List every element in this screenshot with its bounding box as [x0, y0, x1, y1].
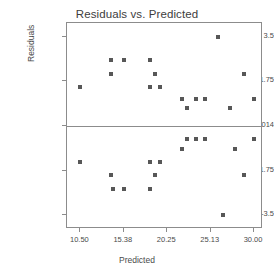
x-tick-mark — [210, 228, 211, 232]
x-tick-label: 10.50 — [70, 236, 89, 244]
x-tick-mark — [166, 228, 167, 232]
data-point — [203, 137, 207, 141]
x-tick-label: 15.38 — [113, 236, 132, 244]
x-tick-mark — [123, 228, 124, 232]
data-point — [148, 160, 152, 164]
data-point — [233, 147, 237, 151]
data-point — [242, 173, 246, 177]
data-point — [221, 213, 225, 217]
data-point — [109, 72, 113, 76]
residuals-scatter-chart: Residuals vs. Predicted Residuals Predic… — [0, 0, 274, 279]
x-tick-label: 25.13 — [200, 236, 219, 244]
data-point — [185, 106, 189, 110]
data-point — [194, 137, 198, 141]
data-point — [185, 137, 189, 141]
data-point — [180, 147, 184, 151]
data-point — [180, 97, 184, 101]
data-point — [78, 85, 82, 89]
x-tick-mark — [79, 228, 80, 232]
data-point — [122, 58, 126, 62]
x-tick-label: 30.00 — [244, 236, 263, 244]
data-point — [203, 97, 207, 101]
chart-title: Residuals vs. Predicted — [0, 8, 274, 20]
data-point — [242, 72, 246, 76]
x-tick-label: 20.25 — [157, 236, 176, 244]
data-point — [158, 160, 162, 164]
data-point — [148, 85, 152, 89]
x-axis-label: Predicted — [0, 255, 274, 265]
plot-area — [66, 22, 262, 228]
data-point — [194, 97, 198, 101]
data-point — [111, 187, 115, 191]
data-point — [109, 173, 113, 177]
x-tick-mark — [253, 228, 254, 232]
data-point — [153, 173, 157, 177]
data-point — [158, 85, 162, 89]
data-point — [216, 35, 220, 39]
data-point — [148, 187, 152, 191]
data-point — [153, 72, 157, 76]
y-axis-label: Residuals — [26, 25, 36, 62]
data-point — [78, 160, 82, 164]
zero-reference-line — [67, 126, 261, 127]
data-point — [109, 58, 113, 62]
data-point — [252, 137, 256, 141]
data-point — [122, 187, 126, 191]
data-point — [252, 97, 256, 101]
data-point — [148, 58, 152, 62]
data-point — [228, 106, 232, 110]
